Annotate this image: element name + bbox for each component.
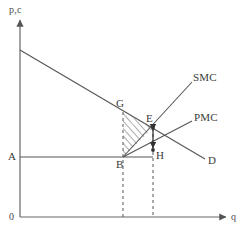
- origin-label: 0: [9, 212, 14, 222]
- point-B-label: B: [116, 159, 124, 170]
- demand-curve: [20, 50, 205, 159]
- pmc-label: PMC: [194, 112, 218, 123]
- diagram-canvas: p,c q 0 SMC PMC D A G E B H: [0, 0, 244, 232]
- price-line-A-label: A: [8, 151, 16, 162]
- point-E-dot: [151, 126, 155, 130]
- point-H-label: H: [156, 150, 164, 161]
- smc-label: SMC: [193, 72, 217, 83]
- demand-label: D: [208, 155, 216, 166]
- point-E-label: E: [146, 113, 153, 124]
- point-H-dot: [151, 148, 155, 152]
- y-axis-label: p,c: [9, 5, 22, 15]
- point-G-label: G: [116, 98, 124, 109]
- x-axis-label: q: [231, 212, 236, 222]
